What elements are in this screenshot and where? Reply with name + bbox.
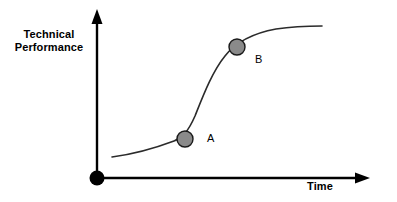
marker-label-b: B: [255, 53, 262, 65]
y-axis-title-line1: Technical: [24, 28, 75, 40]
marker-label-a: A: [207, 132, 214, 144]
y-axis-title-line2: Performance: [15, 41, 83, 53]
y-axis-arrowhead-icon: [92, 9, 103, 24]
marker-point-b[interactable]: [229, 39, 245, 55]
x-axis-title: Time: [296, 180, 344, 193]
x-axis-arrowhead-icon: [355, 173, 370, 184]
marker-point-a[interactable]: [177, 131, 193, 147]
technology-s-curve-figure: TechnicalPerformance Time A B: [0, 0, 397, 202]
s-curve-path: [112, 26, 322, 157]
origin-dot-icon: [90, 171, 105, 186]
y-axis-title: TechnicalPerformance: [11, 28, 87, 54]
